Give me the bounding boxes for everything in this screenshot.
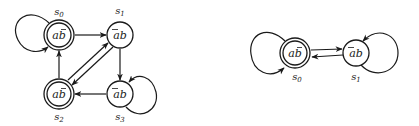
svg-text:s3: s3 bbox=[115, 111, 125, 124]
node-s0: ab s0 bbox=[280, 38, 310, 84]
svg-text:s0: s0 bbox=[54, 6, 64, 19]
right-edges bbox=[251, 32, 398, 73]
right-diagram: ab s0 ab s1 bbox=[251, 32, 398, 84]
svg-text:ab: ab bbox=[288, 47, 302, 60]
svg-text:s1: s1 bbox=[351, 71, 361, 84]
automata-figure: ab s0 ab s1 ab s2 ab s3 bbox=[0, 0, 419, 126]
svg-text:ab: ab bbox=[52, 88, 66, 101]
svg-text:ab: ab bbox=[349, 47, 363, 60]
svg-text:s0: s0 bbox=[292, 71, 302, 84]
svg-text:ab: ab bbox=[52, 29, 66, 42]
svg-text:ab: ab bbox=[113, 29, 127, 42]
node-s1: ab s1 bbox=[107, 5, 133, 48]
node-s0: ab s0 bbox=[44, 6, 74, 50]
edge-s1-to-s0 bbox=[312, 55, 343, 57]
svg-text:s2: s2 bbox=[54, 111, 64, 124]
node-s2: ab s2 bbox=[44, 79, 74, 124]
svg-text:ab: ab bbox=[113, 88, 127, 101]
left-edges bbox=[16, 15, 157, 114]
edge-s1-to-s2 bbox=[72, 47, 113, 85]
left-diagram: ab s0 ab s1 ab s2 ab s3 bbox=[16, 5, 157, 124]
edge-s2-to-s1 bbox=[68, 43, 108, 80]
edge-s0-to-s1 bbox=[311, 49, 342, 50]
svg-text:s1: s1 bbox=[115, 5, 125, 18]
node-s1: ab s1 bbox=[343, 40, 369, 84]
node-s3: ab s3 bbox=[107, 81, 133, 124]
